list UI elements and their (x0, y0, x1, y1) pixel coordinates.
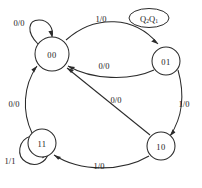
transition-label-10-to-00: 0/0 (111, 95, 122, 105)
transition-11-to-00-path (25, 66, 37, 133)
state-node-11-label: 11 (38, 139, 47, 149)
transition-01-to-00-path (68, 66, 154, 77)
fsm-canvas: 0/0 1/0 0/0 1/0 0/0 1/0 0/0 1/1 00 01 10… (0, 0, 202, 188)
state-node-01-label: 01 (161, 57, 170, 67)
transition-label-10-to-11: 1/0 (94, 161, 105, 171)
transition-11-to-00-arrowhead (31, 66, 37, 73)
state-diagram: 0/0 1/0 0/0 1/0 0/0 1/0 0/0 1/1 00 01 10… (0, 0, 202, 188)
state-node-01[interactable]: 01 (152, 47, 180, 75)
state-node-11[interactable]: 11 (28, 129, 56, 157)
legend-q1-sub: 1 (155, 17, 158, 23)
transition-label-00-to-01: 1/0 (96, 14, 107, 24)
transition-label-11-to-00: 0/0 (9, 99, 20, 109)
transition-label-01-to-00: 0/0 (99, 61, 110, 71)
transition-11-to-00 (25, 66, 37, 133)
legend-state-encoding: Q2Q1 (129, 9, 169, 28)
state-node-10-label: 10 (156, 142, 165, 152)
transition-label-01-to-10: 1/0 (179, 99, 190, 109)
transition-label-00-self: 0/0 (14, 18, 25, 28)
transition-label-11-self: 1/1 (5, 156, 16, 166)
transition-00-to-01-arrowhead (151, 39, 158, 44)
state-node-00-label: 00 (47, 50, 56, 60)
transition-01-to-10-arrowhead (170, 129, 175, 136)
state-node-10[interactable]: 10 (147, 132, 175, 160)
transition-00-self-loop-arrowhead (48, 31, 52, 37)
transition-01-to-00 (68, 66, 154, 77)
transition-10-to-00-path (67, 68, 150, 135)
transition-10-to-00 (67, 68, 150, 135)
state-node-00[interactable]: 00 (35, 37, 69, 71)
